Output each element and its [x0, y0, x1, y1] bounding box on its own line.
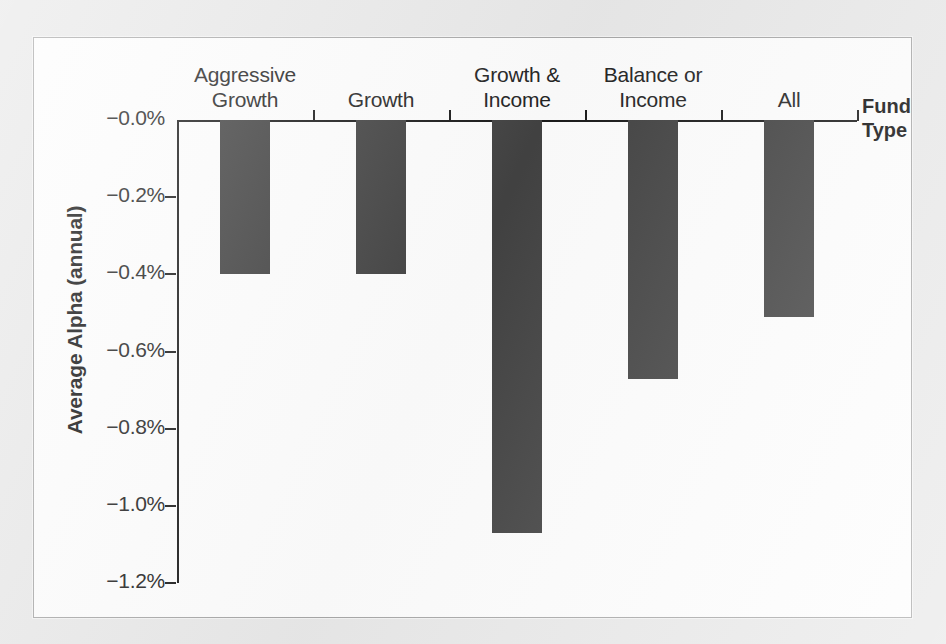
y-axis-tick-label: −0.4%	[73, 260, 165, 284]
bar	[356, 120, 406, 274]
category-label: All	[704, 87, 874, 112]
y-axis-tick-label: −1.2%	[73, 569, 165, 593]
y-axis-tick	[165, 582, 176, 584]
y-axis-tick	[165, 273, 176, 275]
plot-area: Average Alpha (annual) Fund Type −0.0%−0…	[34, 38, 911, 617]
y-axis-tick	[165, 505, 176, 507]
y-axis-tick	[165, 196, 176, 198]
bar	[764, 120, 814, 317]
y-axis-tick-label: −1.0%	[73, 492, 165, 516]
bar	[628, 120, 678, 379]
y-axis-tick-label: −0.0%	[73, 106, 165, 130]
bar	[492, 120, 542, 533]
figure-panel: Average Alpha (annual) Fund Type −0.0%−0…	[33, 37, 912, 618]
y-axis-tick	[165, 428, 176, 430]
bar	[220, 120, 270, 274]
y-axis-tick-label: −0.2%	[73, 183, 165, 207]
y-axis-tick	[165, 351, 176, 353]
y-axis-line	[177, 120, 179, 583]
y-axis-tick-label: −0.6%	[73, 338, 165, 362]
y-axis-tick-label: −0.8%	[73, 415, 165, 439]
scanned-page: Average Alpha (annual) Fund Type −0.0%−0…	[0, 0, 946, 644]
